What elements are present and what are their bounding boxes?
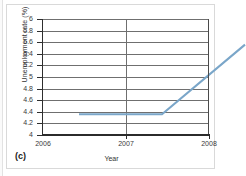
y-axis-tick-label: 4.8: [5, 85, 33, 92]
y-axis-tick-label: 5.4: [5, 50, 33, 57]
y-axis-tick-label: 4.4: [5, 108, 33, 115]
y-axis-tick: [37, 54, 42, 55]
chart-figure: Unemployment rate (%) Year (c) 44.24.44.…: [6, 4, 215, 169]
page-edge: [0, 0, 3, 176]
x-axis-title: Year: [7, 155, 216, 162]
y-axis-tick-label: 5.6: [5, 38, 33, 45]
y-axis-spine: [42, 19, 43, 136]
x-axis-tick-label: 2007: [106, 140, 146, 147]
x-axis-tick-label: 2006: [23, 140, 63, 147]
y-axis-tick: [37, 135, 42, 136]
y-axis-tick-label: 6: [5, 15, 33, 22]
y-axis-tick: [37, 31, 42, 32]
panel-label: (c): [15, 151, 26, 161]
y-axis-tick: [37, 77, 42, 78]
plot-area: [43, 19, 209, 135]
y-axis-tick: [37, 89, 42, 90]
y-axis-tick: [37, 123, 42, 124]
series-line-unemployment-rate: [79, 33, 222, 149]
y-axis-tick: [37, 100, 42, 101]
y-axis-tick-label: 5: [5, 73, 33, 80]
x-axis-tick: [126, 134, 127, 139]
right-spine: [208, 19, 209, 136]
y-axis-tick: [37, 19, 42, 20]
y-axis-tick: [37, 65, 42, 66]
x-axis-tick: [209, 134, 210, 139]
y-axis-tick-label: 5.8: [5, 27, 33, 34]
y-axis-tick-label: 4.6: [5, 96, 33, 103]
y-axis-tick-label: 4.2: [5, 119, 33, 126]
y-axis-tick: [37, 42, 42, 43]
y-axis-tick-label: 5.2: [5, 61, 33, 68]
y-axis-tick-label: 4: [5, 131, 33, 138]
x-axis-tick-label: 2008: [189, 140, 222, 147]
y-axis-tick: [37, 112, 42, 113]
